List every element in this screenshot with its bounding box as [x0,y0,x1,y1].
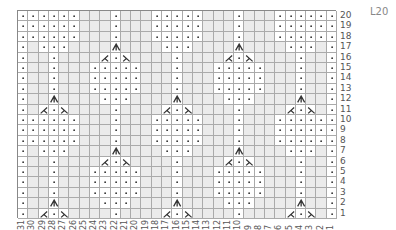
dot-stitch-icon [18,209,28,219]
dot-stitch-icon [152,136,162,146]
chart-cell-blank [121,11,131,21]
dot-stitch-icon [172,146,182,156]
chart-cell-dot-stitch [224,84,234,94]
chart-cell-double-decrease [172,198,182,208]
dot-stitch-icon [172,136,182,146]
chart-cell-blank [286,53,296,63]
chart-cell-dot-stitch [162,115,172,125]
chart-cell-blank [131,209,141,219]
chart-cell-dot-stitch [234,136,244,146]
chart-cell-dot-stitch [275,11,285,21]
chart-cell-dot-stitch [286,115,296,125]
dot-stitch-icon [18,167,28,177]
chart-cell-blank [203,209,213,219]
dot-stitch-icon [286,42,296,52]
chart-cell-dot-stitch [214,188,224,198]
dot-stitch-icon [18,146,28,156]
chart-id-label: L20 [370,6,388,17]
chart-cell-dot-stitch [100,167,110,177]
dot-stitch-icon [162,42,172,52]
chart-cell-right-decrease [306,209,316,219]
dot-stitch-icon [275,21,285,31]
chart-cell-dot-stitch [286,21,296,31]
chart-cell-dot-stitch [172,167,182,177]
chart-cell-blank [183,188,193,198]
chart-cell-blank [316,73,326,83]
chart-cell-dot-stitch [306,21,316,31]
chart-cell-dot-stitch [234,84,244,94]
chart-cell-blank [141,157,151,167]
dot-stitch-icon [296,53,306,63]
chart-cell-dot-stitch [69,125,79,135]
dot-stitch-icon [244,167,254,177]
dot-stitch-icon [121,84,131,94]
chart-cell-dot-stitch [111,53,121,63]
chart-cell-dot-stitch [244,84,254,94]
chart-cell-dot-stitch [234,73,244,83]
dot-stitch-icon [234,53,244,63]
chart-cell-dot-stitch [162,11,172,21]
chart-cell-blank [100,11,110,21]
dot-stitch-icon [121,94,131,104]
chart-cell-right-decrease [121,53,131,63]
chart-cell-blank [141,198,151,208]
row-label: 8 [340,135,346,145]
double-decrease-icon [296,198,306,208]
column-label: 25 [79,220,88,230]
left-decrease-icon [162,209,172,219]
dot-stitch-icon [296,32,306,42]
chart-cell-blank [214,94,224,104]
chart-cell-dot-stitch [327,21,337,31]
dot-stitch-icon [69,115,79,125]
left-decrease-icon [224,157,234,167]
chart-cell-left-decrease [224,157,234,167]
chart-cell-blank [316,177,326,187]
dot-stitch-icon [224,188,234,198]
dot-stitch-icon [234,21,244,31]
chart-cell-blank [203,42,213,52]
dot-stitch-icon [172,73,182,83]
dot-stitch-icon [306,21,316,31]
dot-stitch-icon [172,188,182,198]
double-decrease-icon [172,94,182,104]
dot-stitch-icon [18,188,28,198]
dot-stitch-icon [234,209,244,219]
dot-stitch-icon [214,84,224,94]
column-label: 26 [69,220,78,230]
chart-cell-dot-stitch [327,42,337,52]
chart-cell-double-decrease [49,94,59,104]
chart-cell-blank [316,209,326,219]
dot-stitch-icon [296,157,306,167]
dot-stitch-icon [18,198,28,208]
chart-cell-blank [214,115,224,125]
chart-cell-dot-stitch [255,84,265,94]
dot-stitch-icon [49,53,59,63]
column-label: 21 [120,220,129,230]
dot-stitch-icon [39,125,49,135]
dot-stitch-icon [162,11,172,21]
chart-cell-dot-stitch [316,32,326,42]
double-decrease-icon [49,94,59,104]
dot-stitch-icon [183,115,193,125]
chart-cell-dot-stitch [183,125,193,135]
chart-cell-blank [80,11,90,21]
chart-cell-blank [90,157,100,167]
chart-cell-blank [121,146,131,156]
column-label: 13 [202,220,211,230]
chart-cell-left-decrease [224,53,234,63]
chart-cell-dot-stitch [69,21,79,31]
chart-cell-dot-stitch [183,42,193,52]
chart-cell-dot-stitch [121,177,131,187]
dot-stitch-icon [111,21,121,31]
dot-stitch-icon [49,136,59,146]
row-label: 16 [340,52,351,62]
chart-cell-dot-stitch [316,115,326,125]
chart-cell-dot-stitch [327,209,337,219]
dot-stitch-icon [214,188,224,198]
dot-stitch-icon [327,21,337,31]
chart-cell-blank [275,198,285,208]
chart-cell-blank [244,115,254,125]
chart-cell-blank [203,167,213,177]
chart-cell-blank [203,157,213,167]
dot-stitch-icon [111,53,121,63]
